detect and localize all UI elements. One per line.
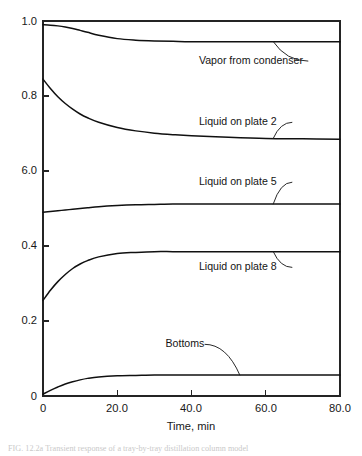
- curve-liquid-on-plate-5: [43, 204, 340, 212]
- series-annotations-group: Vapor from condenserLiquid on plate 2Liq…: [166, 42, 308, 375]
- x-tick-label-0: 0: [40, 402, 46, 414]
- curve-liquid-on-plate-2: [43, 79, 340, 139]
- series-label-bottoms: Bottoms: [166, 337, 205, 349]
- figure-root: 1.0 0.8 6.0 0.4 0.2 0 0 20.0 40.0 60.0 8…: [0, 0, 362, 456]
- y-tick-label-0.6: 6.0: [21, 164, 37, 176]
- y-tick-label-0.2: 0.2: [21, 314, 37, 326]
- series-label-liquid-on-plate-5: Liquid on plate 5: [199, 175, 277, 187]
- series-label-liquid-on-plate-8: Liquid on plate 8: [199, 260, 277, 272]
- y-axis-ticks: [43, 21, 49, 396]
- figure-caption: FIG. 12.2a Transient response of a tray-…: [8, 444, 356, 454]
- chart-canvas: 1.0 0.8 6.0 0.4 0.2 0 0 20.0 40.0 60.0 8…: [0, 0, 362, 456]
- x-axis-title: Time, min: [167, 420, 216, 432]
- series-label-liquid-on-plate-2: Liquid on plate 2: [199, 115, 277, 127]
- y-tick-label-0: 0: [31, 390, 37, 402]
- curve-vapor-from-condenser: [43, 25, 340, 42]
- x-tick-label-80: 80.0: [329, 402, 351, 414]
- x-tick-label-60: 60.0: [255, 402, 277, 414]
- x-axis-ticks: [43, 390, 340, 396]
- x-tick-label-40: 40.0: [180, 402, 202, 414]
- y-tick-label-1.0: 1.0: [21, 15, 37, 27]
- x-tick-label-20: 20.0: [106, 402, 128, 414]
- y-tick-label-0.8: 0.8: [21, 89, 37, 101]
- y-tick-label-0.4: 0.4: [21, 239, 37, 251]
- leader-line-bottoms: [205, 344, 240, 375]
- curve-liquid-on-plate-8: [43, 252, 340, 301]
